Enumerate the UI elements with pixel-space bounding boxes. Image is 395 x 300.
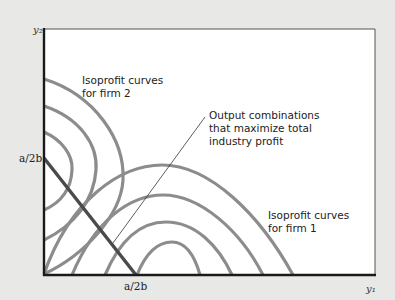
x-axis-label: y₁ — [366, 282, 376, 295]
firm1-annotation-line1: Isoprofit curves — [268, 209, 349, 222]
max-profit-annotation-line3: industry profit — [209, 135, 320, 148]
max-profit-annotation-line2: that maximize total — [209, 122, 320, 135]
firm2-annotation-line1: Isoprofit curves — [82, 74, 163, 87]
x-tick-a-over-2b: a/2b — [124, 280, 147, 293]
y-axis-label: y₂ — [33, 23, 43, 36]
isoprofit-diagram: y₂ y₁ a/2b a/2b Isoprofit curves for fir… — [0, 0, 395, 300]
max-profit-annotation-line1: Output combinations — [209, 109, 320, 122]
firm1-annotation: Isoprofit curves for firm 1 — [268, 209, 349, 235]
max-profit-annotation: Output combinations that maximize total … — [209, 109, 320, 148]
firm2-annotation-line2: for firm 2 — [82, 87, 163, 100]
diagram-canvas — [0, 0, 395, 300]
firm1-annotation-line2: for firm 1 — [268, 222, 349, 235]
firm2-annotation: Isoprofit curves for firm 2 — [82, 74, 163, 100]
y-tick-a-over-2b: a/2b — [19, 152, 42, 165]
